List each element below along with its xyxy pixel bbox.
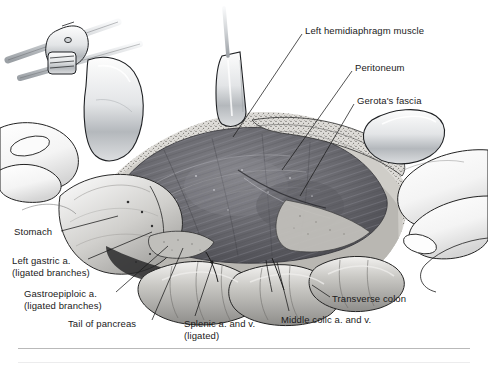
- label-peritoneum: Peritoneum: [355, 62, 405, 74]
- label-left-hemidiaphragm-muscle: Left hemidiaphragm muscle: [305, 25, 424, 37]
- label-stomach: Stomach: [14, 226, 52, 238]
- clamp-pivot-screw: [65, 37, 72, 42]
- label-line-1: Peritoneum: [355, 62, 405, 73]
- label-line-1: Transverse colon: [332, 293, 406, 304]
- label-line-1: Gastroepiploic a.: [24, 288, 97, 299]
- label-line-1: Middle colic a. and v.: [281, 314, 371, 325]
- label-tail-of-pancreas: Tail of pancreas: [68, 318, 136, 330]
- label-line-2: (ligated): [184, 330, 255, 342]
- label-line-1: Splenic a. and v.: [184, 318, 255, 329]
- label-gerotas-fascia: Gerota's fascia: [357, 95, 422, 107]
- retractor-blade-upper-left: [84, 57, 143, 161]
- label-line-1: Tail of pancreas: [68, 318, 136, 329]
- label-line-1: Gerota's fascia: [357, 95, 422, 106]
- label-gastroepiploic-artery: Gastroepiploic a.(ligated branches): [24, 288, 102, 311]
- label-line-2: (ligated branches): [24, 300, 102, 312]
- label-left-gastric-artery: Left gastric a.(ligated branches): [12, 255, 90, 278]
- label-line-2: (ligated branches): [12, 267, 90, 279]
- label-splenic-artery-and-vein: Splenic a. and v.(ligated): [184, 318, 255, 341]
- figure-divider-rule: [18, 348, 470, 349]
- label-transverse-colon: Transverse colon: [332, 293, 406, 305]
- label-line-1: Stomach: [14, 226, 52, 237]
- label-line-1: Left hemidiaphragm muscle: [305, 25, 424, 36]
- label-middle-colic-artery-and-vein: Middle colic a. and v.: [281, 314, 371, 326]
- surgical-illustration: [0, 0, 488, 366]
- figure-footer-rule: [18, 362, 470, 363]
- label-line-1: Left gastric a.: [12, 255, 71, 266]
